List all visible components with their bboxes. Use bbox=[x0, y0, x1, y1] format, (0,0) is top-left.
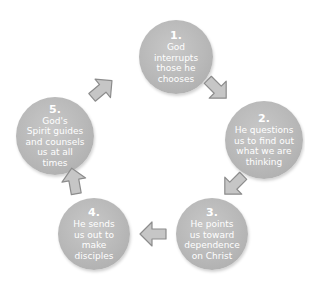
step-number: 4. bbox=[88, 207, 100, 219]
cycle-step-3: 3. He points us toward dependence on Chr… bbox=[176, 198, 248, 270]
arrow-5-to-1-icon bbox=[81, 68, 123, 110]
step-text: He questions us to find out what we are … bbox=[234, 125, 294, 167]
step-number: 1. bbox=[170, 30, 182, 42]
step-text: God interrupts those he chooses bbox=[154, 42, 198, 84]
step-number: 3. bbox=[206, 207, 218, 219]
step-number: 2. bbox=[258, 113, 270, 125]
step-text: He points us toward dependence on Christ bbox=[184, 219, 240, 261]
cycle-step-4: 4. He sends us out to make disciples bbox=[58, 198, 130, 270]
arrow-4-to-5-icon bbox=[57, 164, 92, 199]
step-text: God's Spirit guides and counsels us at a… bbox=[25, 116, 84, 169]
arrow-3-to-4-icon bbox=[138, 219, 168, 249]
step-text: He sends us out to make disciples bbox=[73, 219, 115, 261]
step-number: 5. bbox=[49, 104, 61, 116]
